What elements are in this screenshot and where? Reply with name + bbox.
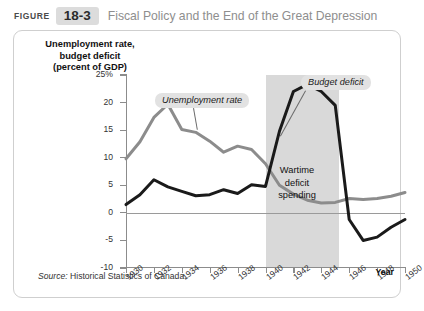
- y-axis-title-line-2: budget deficit: [30, 51, 150, 63]
- wartime-label-line-2: deficit: [266, 177, 328, 190]
- budget-deficit-callout: Budget deficit: [301, 75, 371, 90]
- y-tick-label: 20: [53, 97, 113, 107]
- x-tick-label: 1950: [403, 263, 424, 282]
- figure-word-label: FIGURE: [14, 11, 50, 21]
- source-note: Source: Historical Statistics of Canada.: [38, 271, 187, 281]
- y-tick-label: 0: [53, 207, 113, 217]
- figure-number-badge: 18-3: [56, 7, 99, 26]
- wartime-label-line-3: spending: [266, 189, 328, 202]
- figure-header: FIGURE 18-3 Fiscal Policy and the End of…: [0, 4, 416, 28]
- wartime-deficit-spending-label: Wartime deficit spending: [266, 164, 328, 202]
- y-axis-title-line-1: Unemployment rate,: [30, 39, 150, 51]
- source-text: Historical Statistics of Canada.: [68, 271, 187, 281]
- x-axis-title: Year: [375, 267, 394, 277]
- y-tick-label: 10: [53, 152, 113, 162]
- unemployment-rate-callout: Unemployment rate: [155, 93, 249, 108]
- source-prefix: Source:: [38, 271, 68, 281]
- y-tick-label: 15: [53, 124, 113, 134]
- page-title: Fiscal Policy and the End of the Great D…: [108, 9, 378, 23]
- y-tick-label: -5: [53, 234, 113, 244]
- y-tick-label: 5: [53, 179, 113, 189]
- chart-panel: Unemployment rate, budget deficit (perce…: [13, 30, 401, 298]
- wartime-label-line-1: Wartime: [266, 164, 328, 177]
- y-tick-label: 25%: [53, 69, 113, 79]
